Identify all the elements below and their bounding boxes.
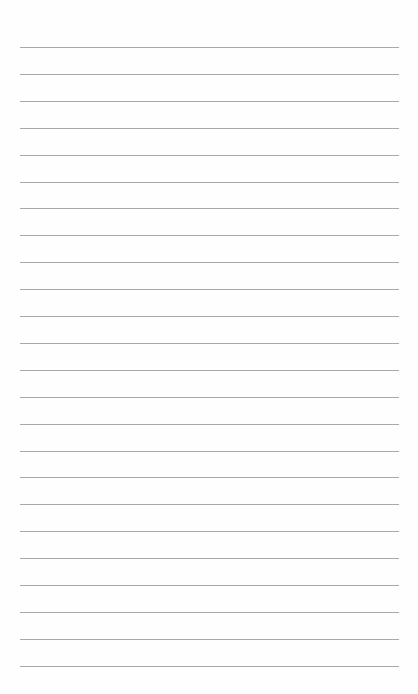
ruled-line [20, 666, 399, 667]
ruled-line [20, 531, 399, 532]
ruled-line [20, 639, 399, 640]
ruled-line [20, 612, 399, 613]
ruled-line [20, 182, 399, 183]
ruled-line [20, 585, 399, 586]
lined-paper-page [0, 0, 418, 694]
ruled-line [20, 477, 399, 478]
ruled-line [20, 47, 399, 48]
ruled-line [20, 558, 399, 559]
ruled-line [20, 316, 399, 317]
ruled-line [20, 155, 399, 156]
ruled-line [20, 235, 399, 236]
ruled-line [20, 208, 399, 209]
ruled-line [20, 343, 399, 344]
ruled-line [20, 128, 399, 129]
ruled-line [20, 101, 399, 102]
ruled-line [20, 262, 399, 263]
ruled-line [20, 451, 399, 452]
ruled-line [20, 289, 399, 290]
ruled-line [20, 74, 399, 75]
ruled-line [20, 424, 399, 425]
ruled-line [20, 397, 399, 398]
ruled-line [20, 370, 399, 371]
ruled-line [20, 504, 399, 505]
